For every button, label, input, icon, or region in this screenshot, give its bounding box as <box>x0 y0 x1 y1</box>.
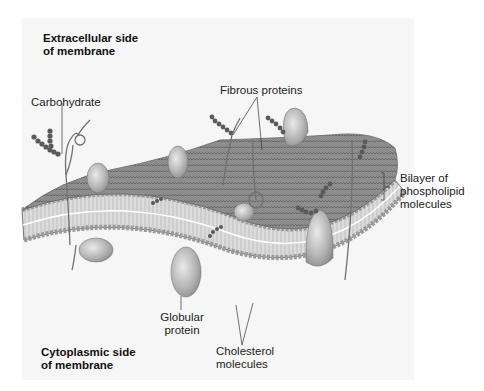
extracellular-line2: of membrane <box>43 45 138 58</box>
globular-protein <box>87 163 109 193</box>
membrane-diagram: Extracellular side of membrane Carbohydr… <box>0 0 484 391</box>
extracellular-line1: Extracellular side <box>43 32 138 45</box>
extracellular-side-label: Extracellular side of membrane <box>43 32 138 58</box>
bilayer-line2: phospholipid <box>400 185 465 198</box>
bilayer-line1: Bilayer of <box>400 172 465 185</box>
carbohydrate-label: Carbohydrate <box>31 96 101 109</box>
globular-line1: Globular <box>160 311 204 324</box>
cytoplasmic-side-label: Cytoplasmic side of membrane <box>41 346 136 372</box>
cholesterol-line2: molecules <box>216 358 274 371</box>
globular-protein-transmembrane <box>171 247 201 297</box>
globular-protein <box>168 146 188 178</box>
cholesterol-label: Cholesterol molecules <box>216 345 274 371</box>
cholesterol-line1: Cholesterol <box>216 345 274 358</box>
fibrous-proteins-label: Fibrous proteins <box>220 84 302 97</box>
cytoplasmic-line1: Cytoplasmic side <box>41 346 136 359</box>
bilayer-label: Bilayer of phospholipid molecules <box>400 172 465 211</box>
globular-protein-label: Globular protein <box>160 311 204 337</box>
cytoplasmic-line2: of membrane <box>41 359 136 372</box>
bilayer-line3: molecules <box>400 198 465 211</box>
globular-line2: protein <box>160 324 204 337</box>
peripheral-protein <box>79 238 113 262</box>
